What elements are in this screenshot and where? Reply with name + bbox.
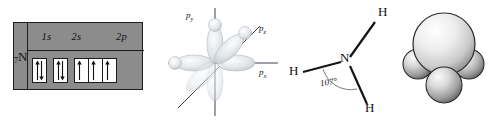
orbital-box (74, 58, 89, 83)
subshell-label-1s: 1s (32, 31, 60, 42)
orbital-box (32, 58, 47, 83)
p-orbital-lobes (169, 19, 256, 102)
atom-label-nitrogen: N (340, 50, 349, 66)
ammonia-bonds (303, 22, 375, 104)
axis-label-pz: pz (259, 23, 266, 35)
orbital-box (53, 58, 68, 83)
subshell-area: 1s 2s 2p (28, 23, 144, 89)
sphere-nitrogen (413, 13, 475, 75)
p-orbital-axes-diagram: py pz px (160, 0, 295, 124)
axis-label-px: px (259, 67, 266, 79)
subshell-label-2p: 2p (98, 31, 144, 42)
spin-up-arrow-icon (76, 60, 83, 81)
space-filling-model (402, 8, 486, 116)
space-filling-svg (402, 8, 486, 116)
atom-label-hydrogen-bottom: H (365, 100, 374, 116)
subshell-label-row: 1s 2s 2p (28, 23, 144, 51)
element-letter: N (18, 49, 27, 64)
orbital-box-row (28, 51, 144, 89)
orbital-box (88, 58, 103, 83)
axis-label-py: py (186, 10, 193, 22)
spin-up-arrow-icon (90, 60, 97, 81)
orbital-group-1s (32, 58, 46, 83)
element-cell: 7N (14, 23, 28, 89)
orbital-box (102, 58, 117, 83)
spin-down-arrow-icon (59, 60, 66, 81)
p-orbital-svg (160, 0, 295, 124)
sphere-hydrogen-front (426, 67, 462, 103)
atom-label-hydrogen-top: H (378, 4, 387, 20)
spin-up-arrow-icon (104, 60, 111, 81)
orbital-group-2p (74, 58, 115, 83)
subshell-label-2s: 2s (62, 31, 90, 42)
atomic-number: 7 (14, 56, 18, 65)
atom-label-hydrogen-left: H (289, 63, 298, 79)
spin-down-arrow-icon (38, 60, 45, 81)
ammonia-structure-diagram: N H H H 107° (295, 0, 400, 124)
element-symbol: 7N (14, 50, 27, 63)
orbital-group-2s (53, 58, 67, 83)
orbital-box-diagram: 7N 1s 2s 2p (13, 22, 143, 90)
